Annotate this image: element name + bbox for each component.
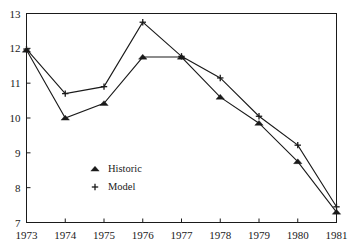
x-tick-label: 1973 — [16, 229, 39, 241]
x-tick-label: 1975 — [93, 229, 116, 241]
x-tick-label: 1979 — [248, 229, 271, 241]
y-tick-label: 9 — [15, 147, 21, 159]
legend-label-historic: Historic — [108, 163, 142, 174]
y-tick-label: 11 — [10, 77, 21, 89]
x-tick-label: 1978 — [209, 229, 232, 241]
y-tick-label: 8 — [15, 182, 21, 194]
x-tick-label: 1974 — [54, 229, 77, 241]
y-tick-label: 12 — [10, 42, 21, 54]
y-tick-label: 7 — [15, 217, 21, 229]
x-axis-tick-labels: 197319741975197619771978197919801981 — [16, 229, 348, 241]
chart-canvas: 78910111213 1973197419751976197719781979… — [0, 0, 351, 246]
legend-label-model: Model — [108, 181, 135, 192]
y-tick-label: 10 — [10, 112, 22, 124]
chart-background — [0, 0, 351, 246]
x-tick-label: 1976 — [132, 229, 155, 241]
y-tick-label: 13 — [10, 8, 22, 20]
line-chart: 78910111213 1973197419751976197719781979… — [0, 0, 351, 246]
x-tick-label: 1981 — [326, 229, 348, 241]
x-tick-label: 1977 — [171, 229, 194, 241]
x-tick-label: 1980 — [287, 229, 310, 241]
